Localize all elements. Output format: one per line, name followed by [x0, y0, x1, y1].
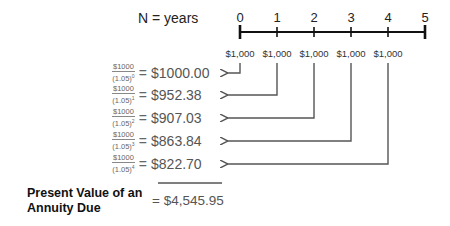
pv-value: $822.70: [151, 156, 202, 172]
tick-label: 4: [378, 10, 398, 25]
pv-value: $863.84: [151, 133, 202, 149]
cash-flow-label: $1,000: [331, 48, 371, 59]
pv-row: $1000 (1.05)0 = $1000.00: [112, 62, 209, 84]
cash-flow-label: $1,000: [368, 48, 408, 59]
tick-label: 1: [267, 10, 287, 25]
tick-label: 3: [341, 10, 361, 25]
cash-flow-label: $1,000: [220, 48, 260, 59]
pv-fraction: $1000 (1.05)2: [112, 108, 135, 128]
pv-fraction: $1000 (1.05)0: [112, 63, 135, 83]
discount-arrows: [227, 63, 388, 164]
pv-value: $1000.00: [151, 65, 209, 81]
pv-value: $952.38: [151, 87, 202, 103]
total-value: = $4,545.95: [152, 193, 224, 208]
tick-label: 5: [415, 10, 435, 25]
total-label: Present Value of an Annuity Due: [27, 186, 142, 216]
pv-fraction: $1000 (1.05)1: [112, 85, 135, 105]
pv-value: $907.03: [151, 110, 202, 126]
cash-flow-label: $1,000: [257, 48, 297, 59]
cash-flow-label: $1,000: [294, 48, 334, 59]
pv-fraction: $1000 (1.05)3: [112, 131, 135, 151]
pv-row: $1000 (1.05)2 = $907.03: [112, 107, 202, 129]
pv-fraction: $1000 (1.05)4: [112, 154, 135, 174]
tick-label: 0: [230, 10, 250, 25]
pv-row: $1000 (1.05)1 = $952.38: [112, 84, 202, 106]
tick-label: 2: [304, 10, 324, 25]
pv-row: $1000 (1.05)4 = $822.70: [112, 153, 202, 175]
timeline-axis: [240, 25, 425, 39]
pv-row: $1000 (1.05)3 = $863.84: [112, 130, 202, 152]
axis-label: N = years: [138, 10, 198, 26]
